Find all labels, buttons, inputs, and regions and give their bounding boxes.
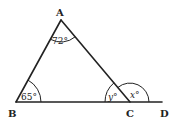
- angle-label-b: 65°: [21, 92, 37, 102]
- triangle-diagram: A B C D 72° 65° y° x°: [0, 0, 176, 120]
- point-label-a: A: [55, 7, 64, 18]
- segment-ab: [16, 20, 61, 102]
- point-label-c: C: [126, 108, 134, 119]
- point-label-b: B: [8, 108, 16, 119]
- angle-label-x: x°: [130, 90, 140, 100]
- point-label-d: D: [160, 108, 169, 119]
- angle-label-a: 72°: [52, 36, 68, 46]
- segment-ac: [61, 20, 130, 102]
- angle-label-y: y°: [107, 92, 118, 102]
